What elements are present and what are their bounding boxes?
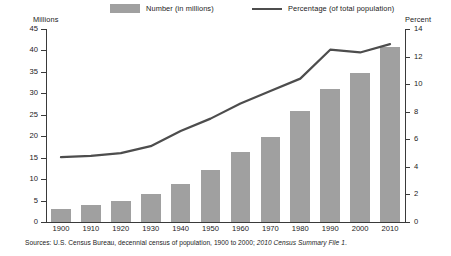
x-label-1970: 1970 <box>255 225 285 233</box>
right-tick-8 <box>405 112 410 113</box>
chart-figure: Number (in millions) Percentage (of tota… <box>0 0 451 256</box>
source-period: . <box>345 239 347 246</box>
right-tick-14 <box>405 29 410 30</box>
x-label-1930: 1930 <box>136 225 166 233</box>
left-tick-label-40: 40 <box>4 46 38 54</box>
left-tick-10 <box>41 179 46 180</box>
source-text: Sources: U.S. Census Bureau, decennial c… <box>25 239 255 246</box>
left-tick-label-0: 0 <box>4 218 38 226</box>
line-path <box>61 44 390 157</box>
left-tick-label-25: 25 <box>4 111 38 119</box>
right-tick-label-10: 10 <box>414 80 448 88</box>
left-tick-45 <box>41 29 46 30</box>
x-label-1950: 1950 <box>196 225 226 233</box>
left-tick-20 <box>41 136 46 137</box>
x-label-1900: 1900 <box>46 225 76 233</box>
bar-swatch-icon <box>110 4 140 13</box>
left-tick-15 <box>41 158 46 159</box>
left-tick-label-15: 15 <box>4 154 38 162</box>
source-citation: 2010 Census Summary File 1 <box>257 239 345 246</box>
right-tick-10 <box>405 84 410 85</box>
right-tick-6 <box>405 139 410 140</box>
left-axis-caption: Millions <box>33 15 58 24</box>
right-tick-label-2: 2 <box>414 190 448 198</box>
x-label-2000: 2000 <box>345 225 375 233</box>
left-tick-label-20: 20 <box>4 132 38 140</box>
left-tick-35 <box>41 72 46 73</box>
line-series <box>46 29 405 222</box>
x-label-2010: 2010 <box>375 225 405 233</box>
percentage-line <box>46 29 405 222</box>
left-tick-5 <box>41 201 46 202</box>
x-label-1990: 1990 <box>315 225 345 233</box>
x-label-1910: 1910 <box>76 225 106 233</box>
left-tick-label-35: 35 <box>4 68 38 76</box>
right-axis-line <box>405 29 406 222</box>
right-tick-12 <box>405 57 410 58</box>
left-tick-0 <box>41 222 46 223</box>
left-tick-25 <box>41 115 46 116</box>
line-swatch-icon <box>252 8 282 10</box>
x-label-1920: 1920 <box>106 225 136 233</box>
right-tick-2 <box>405 194 410 195</box>
x-axis-labels: 1900191019201930194019501960197019801990… <box>46 225 405 237</box>
right-tick-label-14: 14 <box>414 25 448 33</box>
right-tick-label-6: 6 <box>414 135 448 143</box>
legend-label-percentage: Percentage (of total population) <box>288 4 394 13</box>
chart-legend: Number (in millions) Percentage (of tota… <box>0 3 451 19</box>
left-tick-label-30: 30 <box>4 89 38 97</box>
legend-item-percentage: Percentage (of total population) <box>252 4 394 13</box>
right-tick-4 <box>405 167 410 168</box>
plot-area: 051015202530354045 02468101214 <box>46 29 405 222</box>
x-label-1980: 1980 <box>285 225 315 233</box>
right-tick-label-12: 12 <box>414 53 448 61</box>
legend-label-number: Number (in millions) <box>146 4 214 13</box>
x-label-1940: 1940 <box>166 225 196 233</box>
legend-item-number: Number (in millions) <box>110 4 214 13</box>
bottom-axis-line <box>46 222 405 223</box>
left-tick-30 <box>41 93 46 94</box>
left-tick-label-10: 10 <box>4 175 38 183</box>
right-tick-0 <box>405 222 410 223</box>
left-tick-label-45: 45 <box>4 25 38 33</box>
right-tick-label-0: 0 <box>414 218 448 226</box>
left-tick-label-5: 5 <box>4 197 38 205</box>
right-tick-label-4: 4 <box>414 163 448 171</box>
right-tick-label-8: 8 <box>414 108 448 116</box>
x-label-1960: 1960 <box>226 225 256 233</box>
source-note: Sources: U.S. Census Bureau, decennial c… <box>25 239 445 246</box>
left-tick-40 <box>41 50 46 51</box>
right-axis-caption: Percent <box>405 15 431 24</box>
